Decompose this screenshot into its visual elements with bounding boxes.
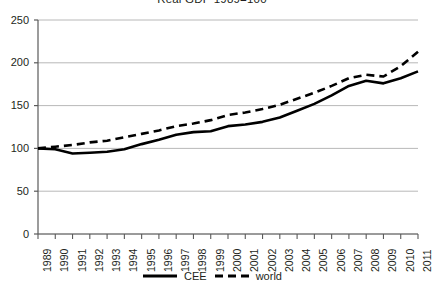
chart-legend: CEEworld: [0, 270, 424, 282]
legend-label: CEE: [184, 270, 207, 282]
legend-swatch-dashed: [214, 271, 250, 281]
x-tick-label: 1989: [42, 249, 53, 272]
x-tick-label: 2002: [267, 249, 278, 272]
y-tick-label: 150: [3, 100, 29, 111]
x-tick-label: 2008: [370, 249, 381, 272]
x-tick-label: 2009: [387, 249, 398, 272]
x-tick-label: 2003: [284, 249, 295, 272]
x-tick-label: 2011: [422, 249, 433, 272]
x-tick-label: 1998: [197, 249, 208, 272]
x-tick-label: 1995: [146, 249, 157, 272]
x-tick-label: 2005: [318, 249, 329, 272]
series-line-world: [38, 52, 418, 149]
legend-item-cee: CEE: [142, 270, 207, 282]
x-tick-label: 2001: [249, 249, 260, 272]
y-tick-label: 100: [3, 143, 29, 154]
x-tick-label: 1992: [94, 249, 105, 272]
x-tick-label: 1993: [111, 249, 122, 272]
x-tick-label: 1990: [59, 249, 70, 272]
y-tick-label: 0: [3, 229, 29, 240]
x-tick-label: 2006: [336, 249, 347, 272]
x-tick-label: 2000: [232, 249, 243, 272]
x-tick-label: 2007: [353, 249, 364, 272]
y-tick-label: 50: [3, 186, 29, 197]
x-tick-label: 2004: [301, 249, 312, 272]
y-tick-label: 200: [3, 57, 29, 68]
x-tick-label: 1997: [180, 249, 191, 272]
legend-label: world: [256, 270, 282, 282]
legend-item-world: world: [214, 270, 282, 282]
x-tick-label: 1994: [128, 249, 139, 272]
x-tick-label: 2010: [405, 249, 416, 272]
x-tick-label: 1996: [163, 249, 174, 272]
legend-swatch-solid: [142, 271, 178, 281]
x-tick-label: 1991: [77, 249, 88, 272]
y-tick-label: 250: [3, 15, 29, 26]
x-tick-label: 1999: [215, 249, 226, 272]
